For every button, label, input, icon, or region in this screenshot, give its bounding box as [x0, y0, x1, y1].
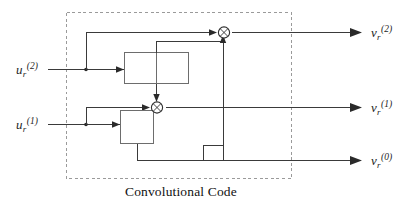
adder-top — [218, 27, 229, 38]
input-label-u1-sup: (1) — [27, 116, 38, 126]
input-label-u2-base: u — [16, 62, 23, 77]
arrowhead-output-v1 — [350, 103, 362, 112]
arrowhead-output-v0 — [350, 156, 362, 165]
arrowhead-adder-middle-left-in — [142, 104, 150, 110]
arrowhead-adder-top-left-in — [209, 29, 217, 35]
output-label-v2-sup: (2) — [381, 24, 392, 34]
convolutional-code-boundary — [67, 13, 292, 179]
wire-register-upper-feedback — [157, 38, 224, 53]
output-label-v0-base: v — [371, 153, 377, 168]
input-label-u2-sup: (2) — [27, 61, 38, 71]
input-label-u1: ur(1) — [16, 117, 38, 134]
diagram-caption: Convolutional Code — [125, 185, 237, 199]
wire-register-lower-feedback — [137, 144, 203, 161]
arrowhead-register-upper-in — [116, 66, 124, 72]
diagram-canvas — [0, 0, 407, 207]
output-label-v2-base: v — [371, 25, 377, 40]
input-label-u1-sub: r — [23, 124, 27, 134]
arrowhead-output-v2 — [350, 28, 362, 37]
wire-trunk-to-v0-riser — [203, 146, 223, 161]
output-label-v1-sub: r — [377, 107, 381, 117]
delay-register-lower — [121, 111, 154, 144]
output-label-v0-sub: r — [377, 160, 381, 170]
input-label-u2-sub: r — [23, 69, 27, 79]
output-label-v2-sub: r — [377, 32, 381, 42]
arrowhead-register-lower-in — [112, 121, 120, 127]
output-label-v1-sup: (1) — [381, 99, 392, 109]
arrowhead-adder-middle-top-in — [153, 94, 159, 102]
convolutional-code-diagram: ur(2) ur(1) vr(2) vr(1) vr(0) Convolutio… — [0, 0, 407, 207]
input-label-u1-base: u — [16, 117, 23, 132]
output-label-v1-base: v — [371, 100, 377, 115]
output-label-v1: vr(1) — [371, 100, 392, 117]
output-label-v2: vr(2) — [371, 25, 392, 42]
adder-middle — [151, 102, 162, 113]
input-label-u2: ur(2) — [16, 62, 38, 79]
output-label-v0-sup: (0) — [381, 152, 392, 162]
output-label-v0: vr(0) — [371, 153, 392, 170]
